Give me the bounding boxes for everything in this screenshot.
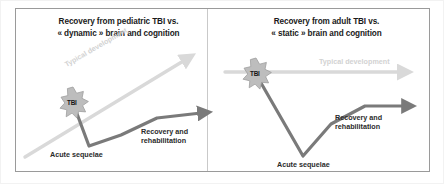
tbi-star-label-pediatric: TBI	[67, 99, 77, 106]
recovery-label-pediatric-line2: rehabilitation	[141, 136, 186, 145]
recovery-rehabilitation-label-adult: Recovery and rehabilitation	[335, 113, 397, 131]
panel-adult-chart	[223, 8, 430, 172]
acute-sequelae-label-pediatric: Acute sequelae	[50, 150, 103, 159]
tbi-star-label-adult: TBI	[250, 70, 260, 77]
panel-adult: Recovery from adult TBI vs. « static » b…	[223, 8, 430, 172]
panel-pediatric: Recovery from pediatric TBI vs. « dynami…	[15, 8, 222, 172]
recovery-label-pediatric-line1: Recovery and	[141, 127, 188, 136]
figure-root: Recovery from pediatric TBI vs. « dynami…	[0, 0, 445, 185]
recovery-label-adult-line2: rehabilitation	[335, 122, 380, 131]
typical-development-label-adult: Typical development	[319, 57, 390, 66]
recovery-rehabilitation-label-pediatric: Recovery and rehabilitation	[141, 127, 203, 145]
acute-sequelae-label-adult: Acute sequelae	[277, 160, 330, 169]
recovery-label-adult-line1: Recovery and	[335, 113, 382, 122]
